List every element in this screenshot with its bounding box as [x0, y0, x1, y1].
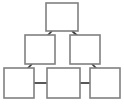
diagram-svg [0, 0, 124, 110]
node-bottom-left-box[interactable] [4, 68, 34, 98]
node-mid-left[interactable] [25, 35, 55, 64]
node-bottom-center[interactable] [47, 68, 80, 98]
node-top-box[interactable] [46, 3, 78, 31]
node-mid-left-box[interactable] [25, 35, 55, 64]
node-bottom-right-box[interactable] [90, 68, 120, 98]
node-top[interactable] [46, 3, 78, 31]
node-mid-right-box[interactable] [70, 35, 100, 64]
node-mid-right[interactable] [70, 35, 100, 64]
node-group [4, 3, 120, 98]
node-bottom-right[interactable] [90, 68, 120, 98]
node-bottom-left[interactable] [4, 68, 34, 98]
diagram-canvas [0, 0, 124, 110]
node-bottom-center-box[interactable] [47, 68, 80, 98]
